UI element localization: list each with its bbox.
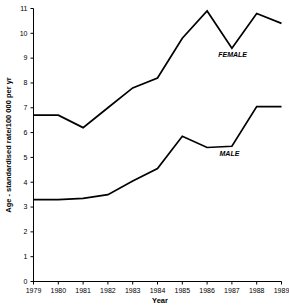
x-axis-tick-label: 1981 (75, 287, 91, 294)
series-annotations: FEMALEMALE (218, 51, 247, 157)
series-label-male: MALE (220, 150, 240, 157)
y-axis-tick-label: 2 (24, 228, 28, 235)
x-axis-tick-labels: 1979198019811982198319841985198619871988… (26, 287, 289, 294)
x-axis-tick-label: 1982 (100, 287, 116, 294)
y-axis-tick-label: 3 (24, 203, 28, 210)
line-chart: 01234567891011 1979198019811982198319841… (0, 0, 289, 307)
x-axis-tick-label: 1983 (125, 287, 141, 294)
y-axis-tick-label: 0 (24, 278, 28, 285)
x-axis: 1979198019811982198319841985198619871988… (26, 282, 289, 294)
chart-container: 01234567891011 1979198019811982198319841… (0, 0, 289, 307)
y-axis: 01234567891011 (20, 5, 34, 285)
x-axis-tick-label: 1980 (51, 287, 67, 294)
y-axis-title: Age - standardised rate/100 000 per yr (4, 77, 13, 213)
y-axis-tick-label: 9 (24, 54, 28, 61)
y-axis-tick-label: 8 (24, 79, 28, 86)
series-line-female (34, 11, 282, 128)
y-axis-tick-labels: 01234567891011 (20, 5, 28, 285)
x-axis-tick-label: 1988 (249, 287, 265, 294)
x-axis-tick-label: 1987 (224, 287, 240, 294)
series-label-female: FEMALE (218, 51, 247, 58)
y-axis-tick-label: 10 (20, 30, 28, 37)
y-axis-tick-label: 4 (24, 179, 28, 186)
y-axis-tick-label: 5 (24, 154, 28, 161)
y-axis-tick-label: 11 (20, 5, 27, 12)
x-axis-tick-label: 1985 (175, 287, 191, 294)
x-axis-tick-label: 1989 (274, 287, 289, 294)
y-axis-tick-label: 6 (24, 129, 28, 136)
y-axis-tick-label: 7 (24, 104, 28, 111)
x-axis-tick-label: 1979 (26, 287, 42, 294)
x-axis-tick-label: 1984 (150, 287, 166, 294)
y-axis-tick-label: 1 (24, 253, 28, 260)
x-axis-title: Year (152, 296, 168, 305)
x-axis-tick-label: 1986 (199, 287, 215, 294)
data-series-group (34, 11, 282, 200)
